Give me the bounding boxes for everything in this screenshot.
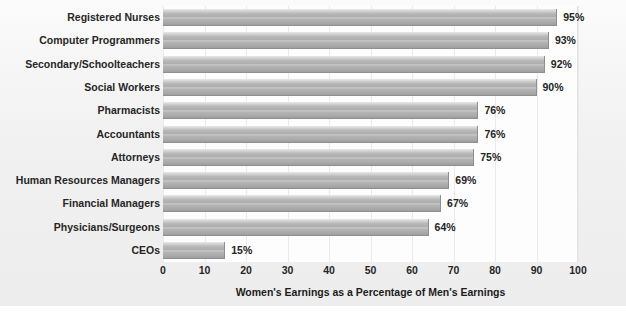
x-tick-label: 40 bbox=[323, 264, 335, 276]
bar-row: Pharmacists76% bbox=[163, 99, 578, 122]
x-tick-label: 80 bbox=[489, 264, 501, 276]
x-axis-ticks: 0102030405060708090100 bbox=[163, 264, 578, 282]
bar bbox=[163, 79, 537, 96]
bar-value-label: 92% bbox=[551, 56, 572, 73]
bar-fill bbox=[163, 102, 478, 119]
bar-value-label: 69% bbox=[455, 172, 476, 189]
x-tick-label: 60 bbox=[406, 264, 418, 276]
bar bbox=[163, 56, 545, 73]
bar-fill bbox=[163, 32, 549, 49]
bar bbox=[163, 219, 429, 236]
category-label: Human Resources Managers bbox=[3, 169, 160, 192]
bar bbox=[163, 149, 474, 166]
x-tick-label: 20 bbox=[240, 264, 252, 276]
gridline-100 bbox=[578, 6, 579, 262]
bar-fill bbox=[163, 56, 545, 73]
bar bbox=[163, 9, 557, 26]
x-tick-label: 70 bbox=[448, 264, 460, 276]
x-tick-label: 30 bbox=[282, 264, 294, 276]
bar-fill bbox=[163, 126, 478, 143]
bar-value-label: 76% bbox=[484, 126, 505, 143]
bar-value-label: 95% bbox=[563, 9, 584, 26]
bar-fill bbox=[163, 79, 537, 96]
bar-value-label: 90% bbox=[543, 79, 564, 96]
bar-fill bbox=[163, 172, 449, 189]
bar bbox=[163, 172, 449, 189]
category-label: Physicians/Surgeons bbox=[3, 216, 160, 239]
bar bbox=[163, 102, 478, 119]
x-tick-label: 90 bbox=[531, 264, 543, 276]
bar bbox=[163, 126, 478, 143]
category-label: Secondary/Schoolteachers bbox=[3, 53, 160, 76]
category-label: Pharmacists bbox=[3, 99, 160, 122]
bar-row: Computer Programmers93% bbox=[163, 29, 578, 52]
bar-row: Registered Nurses95% bbox=[163, 6, 578, 29]
x-tick-label: 0 bbox=[160, 264, 166, 276]
category-label: CEOs bbox=[3, 239, 160, 262]
x-tick-label: 10 bbox=[199, 264, 211, 276]
bar-value-label: 75% bbox=[480, 149, 501, 166]
bar-row: Secondary/Schoolteachers92% bbox=[163, 53, 578, 76]
bar-value-label: 76% bbox=[484, 102, 505, 119]
bar-row: CEOs15% bbox=[163, 239, 578, 262]
bar bbox=[163, 242, 225, 259]
category-label: Attorneys bbox=[3, 146, 160, 169]
x-tick-label: 50 bbox=[365, 264, 377, 276]
page-margin bbox=[0, 306, 626, 322]
bar-row: Human Resources Managers69% bbox=[163, 169, 578, 192]
x-axis-title: Women's Earnings as a Percentage of Men'… bbox=[163, 286, 578, 298]
bar-chart-figure: Registered Nurses95%Computer Programmers… bbox=[0, 0, 626, 322]
bar-row: Physicians/Surgeons64% bbox=[163, 216, 578, 239]
bar-value-label: 67% bbox=[447, 195, 468, 212]
bar-fill bbox=[163, 242, 225, 259]
bar-fill bbox=[163, 9, 557, 26]
category-label: Computer Programmers bbox=[3, 29, 160, 52]
bar-fill bbox=[163, 219, 429, 236]
category-label: Social Workers bbox=[3, 76, 160, 99]
bar-row: Social Workers90% bbox=[163, 76, 578, 99]
bar bbox=[163, 32, 549, 49]
category-label: Registered Nurses bbox=[3, 6, 160, 29]
category-label: Financial Managers bbox=[3, 192, 160, 215]
bar-row: Accountants76% bbox=[163, 123, 578, 146]
bar-value-label: 15% bbox=[231, 242, 252, 259]
bar-fill bbox=[163, 149, 474, 166]
bar-row: Attorneys75% bbox=[163, 146, 578, 169]
plot-area: Registered Nurses95%Computer Programmers… bbox=[163, 6, 578, 262]
bar-value-label: 64% bbox=[435, 219, 456, 236]
bar-fill bbox=[163, 195, 441, 212]
x-tick-label: 100 bbox=[569, 264, 587, 276]
bar-value-label: 93% bbox=[555, 32, 576, 49]
bar-row: Financial Managers67% bbox=[163, 192, 578, 215]
bar bbox=[163, 195, 441, 212]
category-label: Accountants bbox=[3, 123, 160, 146]
